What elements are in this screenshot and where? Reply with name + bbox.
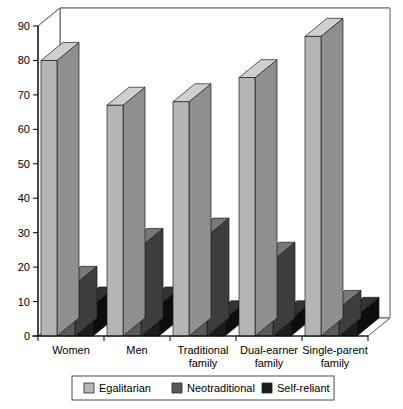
y-tick-label: 90 (18, 20, 30, 32)
bar-chart: 0102030405060708090 WomenMenTraditionalf… (0, 0, 403, 409)
bar-side-face (189, 84, 211, 336)
legend-swatch (172, 383, 182, 393)
chart-legend: EgalitarianNeotraditionalSelf-reliant (72, 376, 334, 400)
bar (107, 87, 145, 336)
bar (41, 42, 79, 336)
y-tick-label: 30 (18, 227, 30, 239)
y-tick-label: 80 (18, 54, 30, 66)
legend-label: Egalitarian (99, 382, 151, 394)
bar (239, 60, 277, 336)
bar-side-face (57, 42, 79, 336)
x-axis-category-label: Single-parent (302, 344, 367, 356)
x-axis-category-label: Traditional (178, 344, 229, 356)
bar-front-face (107, 105, 123, 336)
x-axis-category-label: Men (126, 344, 147, 356)
y-tick-label: 10 (18, 296, 30, 308)
x-axis-category-label: family (189, 357, 218, 369)
x-axis-category-label: Women (52, 344, 90, 356)
bar-front-face (173, 102, 189, 336)
bar-side-face (255, 60, 277, 336)
x-axis-category-label: Dual-earner (240, 344, 298, 356)
y-tick-label: 40 (18, 192, 30, 204)
y-tick-label: 50 (18, 158, 30, 170)
x-axis-category-label: family (321, 357, 350, 369)
legend-swatch (262, 383, 272, 393)
y-tick-label: 70 (18, 89, 30, 101)
y-tick-label: 60 (18, 123, 30, 135)
bar-side-face (321, 18, 343, 336)
y-tick-label: 20 (18, 261, 30, 273)
chart-canvas: 0102030405060708090 WomenMenTraditionalf… (0, 0, 403, 409)
x-axis-category-label: family (255, 357, 284, 369)
legend-swatch (84, 383, 94, 393)
y-tick-label: 0 (24, 330, 30, 342)
bar-front-face (305, 36, 321, 336)
bar-side-face (123, 87, 145, 336)
legend-label: Self-reliant (277, 382, 330, 394)
bar (305, 18, 343, 336)
bar (173, 84, 211, 336)
legend-label: Neotraditional (187, 382, 255, 394)
bar-front-face (239, 78, 255, 336)
bar-front-face (41, 60, 57, 336)
